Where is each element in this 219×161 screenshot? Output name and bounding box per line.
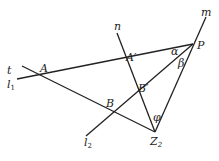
label-l2: l2	[84, 136, 92, 150]
label-angle-beta: β	[177, 57, 184, 70]
label-point-P: P	[196, 39, 205, 52]
label-n: n	[114, 20, 121, 33]
line-m	[155, 17, 206, 132]
label-point-B-prime: B′	[137, 82, 149, 95]
geometry-diagram: t l1 l2 m n A A′ B B′ P Z2 α β φ	[0, 0, 219, 161]
label-point-Z2: Z2	[149, 135, 163, 149]
label-point-A: A	[39, 62, 48, 75]
label-point-B: B	[105, 97, 114, 110]
line-l1	[22, 66, 155, 132]
label-m: m	[201, 6, 211, 19]
label-angle-phi: φ	[153, 111, 161, 124]
label-l1: l1	[7, 78, 15, 92]
line-n	[117, 33, 155, 132]
label-point-A-prime: A′	[125, 51, 137, 64]
label-t: t	[7, 64, 12, 77]
